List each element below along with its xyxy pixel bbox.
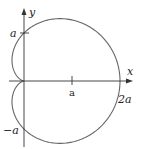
- y-axis-arrow-icon: [22, 8, 27, 15]
- x-tick-label-2a: 2a: [117, 93, 132, 106]
- x-axis-arrow-icon: [126, 79, 133, 84]
- y-tick-label-neg-a: −a: [3, 124, 19, 137]
- diagram-canvas: y x a −a a 2a: [0, 0, 142, 149]
- y-tick-label-a: a: [10, 27, 17, 40]
- cardioid-diagram: y x a −a a 2a: [0, 0, 142, 149]
- y-axis-label: y: [28, 6, 36, 19]
- x-axis-label: x: [127, 65, 134, 78]
- x-tick-label-a: a: [69, 87, 75, 98]
